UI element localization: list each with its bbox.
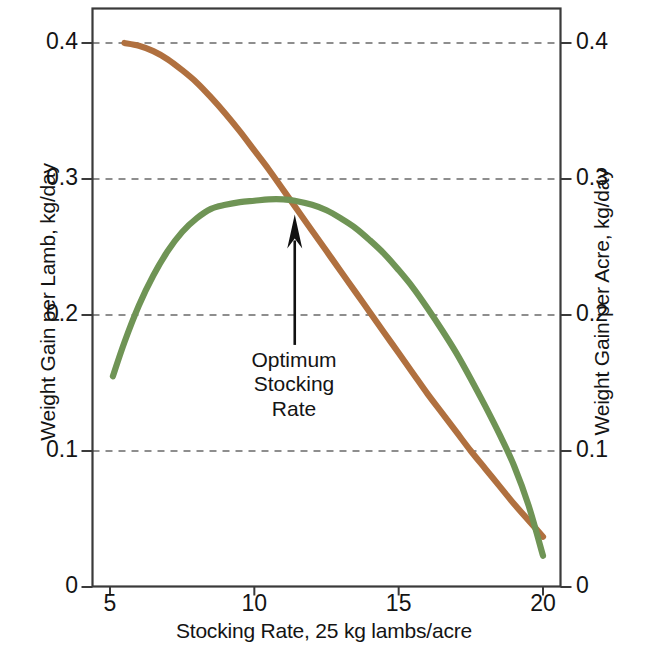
y-axis-right-title: Weight Gain per Acre, kg/day [590, 92, 614, 512]
chart-figure: 00.10.20.30.4 00.10.20.30.4 5101520 Weig… [0, 0, 648, 651]
annotation-line-3: Rate [196, 397, 392, 421]
x-tick-label: 5 [80, 590, 140, 617]
annotation-line-2: Stocking [196, 372, 392, 396]
optimum-stocking-rate-arrow [287, 214, 302, 344]
y-tick-marks-left [82, 43, 93, 587]
annotation-line-1: Optimum [196, 348, 392, 372]
x-tick-marks [110, 587, 543, 596]
y-tick-marks-right [561, 43, 572, 587]
y-tick-label-right: 0.4 [576, 28, 646, 55]
y-tick-label-right: 0 [576, 572, 646, 599]
y-tick-label-left: 0.4 [8, 28, 78, 55]
x-tick-label: 20 [513, 590, 573, 617]
y-tick-label-left: 0 [8, 572, 78, 599]
y-axis-left-title: Weight Gain per Lamb, kg/day [36, 92, 60, 512]
plot-frame [93, 9, 561, 587]
x-axis-title: Stocking Rate, 25 kg lambs/acre [0, 619, 648, 643]
optimum-stocking-rate-annotation: Optimum Stocking Rate [196, 348, 392, 421]
plot-canvas [0, 0, 648, 651]
x-tick-label: 10 [224, 590, 284, 617]
curve-weight-gain-per-lamb [124, 43, 543, 537]
x-tick-label: 15 [369, 590, 429, 617]
